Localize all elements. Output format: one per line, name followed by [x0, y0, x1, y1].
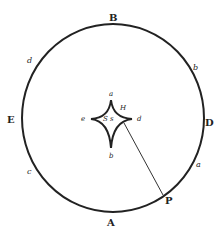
label-outer-d: d: [27, 56, 32, 65]
geometric-diagram: B A E D P d b c a a b d e H S s: [0, 0, 224, 231]
label-A: A: [106, 217, 115, 228]
label-P: P: [165, 195, 173, 206]
label-inner-S: S s: [103, 115, 114, 123]
label-outer-a: a: [196, 160, 201, 169]
label-D: D: [205, 117, 214, 128]
radial-line: [124, 123, 163, 195]
label-inner-a: a: [109, 90, 113, 98]
diagram-canvas: B A E D P d b c a a b d e H S s: [0, 0, 224, 231]
label-inner-e: e: [81, 115, 85, 123]
label-inner-H: H: [119, 104, 127, 112]
label-B: B: [109, 12, 117, 23]
label-E: E: [7, 114, 15, 125]
label-inner-d: d: [137, 115, 142, 123]
label-outer-c: c: [27, 167, 32, 176]
label-outer-b: b: [193, 63, 198, 72]
label-inner-b: b: [109, 152, 114, 160]
